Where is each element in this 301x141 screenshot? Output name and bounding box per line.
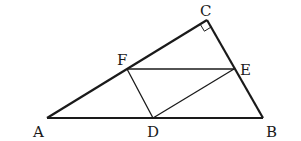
- label-F: F: [117, 51, 127, 69]
- label-B: B: [266, 123, 277, 141]
- label-C: C: [200, 2, 211, 20]
- label-D: D: [147, 123, 159, 141]
- label-E: E: [240, 61, 251, 79]
- label-A: A: [32, 123, 44, 141]
- segment-FD: [127, 69, 153, 118]
- triangle-diagram: C F E A D B: [0, 0, 301, 141]
- segment-DE: [153, 69, 234, 118]
